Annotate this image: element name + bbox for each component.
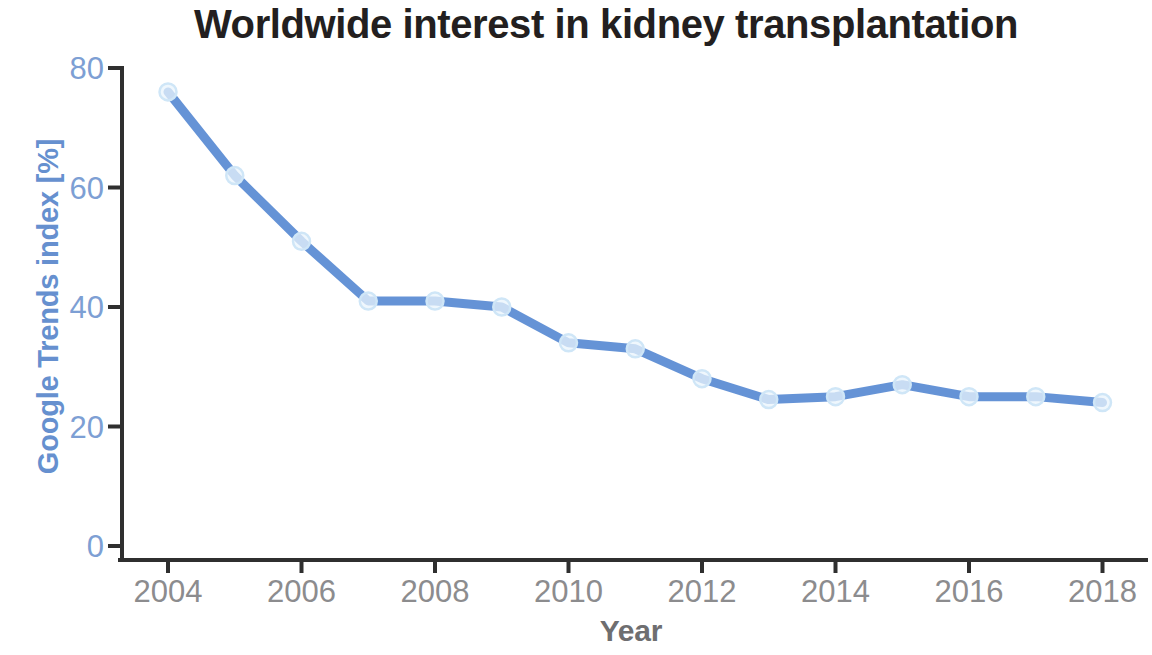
x-tick-label: 2008 <box>401 574 470 609</box>
x-tick-label: 2018 <box>1068 574 1137 609</box>
y-tick-label: 80 <box>70 51 104 86</box>
chart-figure: Worldwide interest in kidney transplanta… <box>0 0 1152 655</box>
x-tick-label: 2012 <box>668 574 737 609</box>
data-point-marker <box>961 388 978 405</box>
data-point-marker <box>1027 388 1044 405</box>
x-tick-label: 2006 <box>267 574 336 609</box>
data-point-marker <box>226 167 243 184</box>
x-tick-label: 2014 <box>801 574 870 609</box>
data-point-marker <box>493 299 510 316</box>
y-axis-tick-labels: 020406080 <box>70 51 104 564</box>
data-point-marker <box>894 376 911 393</box>
data-point-marker <box>160 83 177 100</box>
data-point-marker <box>694 370 711 387</box>
y-tick-label: 40 <box>70 290 104 325</box>
x-tick-label: 2004 <box>134 574 203 609</box>
plot-area: 020406080 200420062008201020122014201620… <box>0 0 1152 655</box>
y-tick-label: 60 <box>70 171 104 206</box>
data-point-marker <box>827 388 844 405</box>
data-point-marker <box>427 293 444 310</box>
data-point-marker <box>293 233 310 250</box>
data-point-marker <box>760 391 777 408</box>
x-tick-label: 2010 <box>534 574 603 609</box>
data-point-marker <box>1094 394 1111 411</box>
y-tick-label: 0 <box>87 529 104 564</box>
x-tick-label: 2016 <box>935 574 1004 609</box>
data-point-marker <box>560 334 577 351</box>
x-axis-tick-labels: 20042006200820102012201420162018 <box>134 574 1137 609</box>
data-point-markers <box>160 83 1112 411</box>
data-point-marker <box>360 293 377 310</box>
y-axis-tick-marks <box>108 68 122 546</box>
data-point-marker <box>627 340 644 357</box>
y-tick-label: 20 <box>70 410 104 445</box>
